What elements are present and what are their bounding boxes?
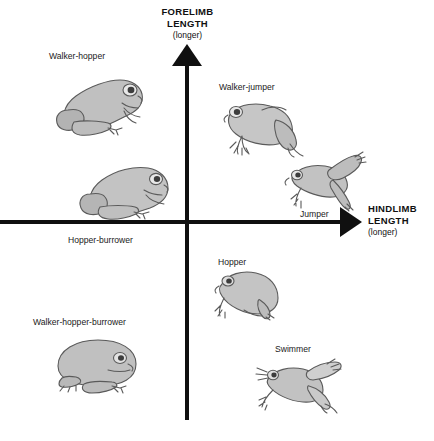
frog-illustration-walker-hopper xyxy=(50,70,155,140)
frog-illustration-hopper xyxy=(208,268,294,322)
y-axis-title: FORELIMB LENGTH (longer) xyxy=(145,6,230,42)
label-walker-jumper: Walker-jumper xyxy=(219,82,275,92)
label-swimmer: Swimmer xyxy=(275,344,311,354)
x-axis-title-line2: LENGTH xyxy=(368,215,409,226)
label-walker-hopper-burrower: Walker-hopper-burrower xyxy=(33,317,126,327)
y-axis-title-line2: LENGTH xyxy=(167,18,208,29)
frog-illustration-walker-hopper-burrower xyxy=(48,336,148,398)
up-arrow-icon xyxy=(172,44,202,66)
x-axis-title-line1: HINDLIMB xyxy=(368,203,417,214)
x-axis-note: (longer) xyxy=(368,227,434,239)
frog-illustration-swimmer xyxy=(253,356,353,414)
frog-illustration-hopper-burrower xyxy=(74,160,179,222)
x-axis-title: HINDLIMB LENGTH (longer) xyxy=(368,203,434,239)
label-walker-hopper: Walker-hopper xyxy=(49,51,105,61)
y-axis-title-line1: FORELIMB xyxy=(161,6,213,17)
y-axis-note: (longer) xyxy=(145,30,230,42)
label-hopper-burrower: Hopper-burrower xyxy=(68,235,133,245)
vertical-axis-line xyxy=(185,58,189,420)
frog-illustration-walker-jumper xyxy=(218,96,313,158)
label-hopper: Hopper xyxy=(218,257,246,267)
frog-illustration-jumper xyxy=(283,150,371,212)
frog-locomotion-quadrant-diagram: FORELIMB LENGTH (longer) HINDLIMB LENGTH… xyxy=(0,0,434,441)
